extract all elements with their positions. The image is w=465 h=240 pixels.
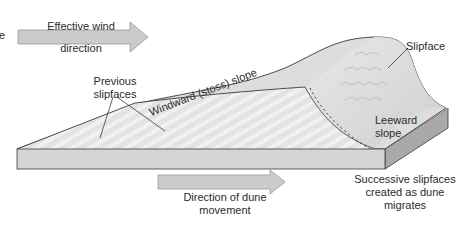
leeward-label-line2: slope: [375, 127, 417, 140]
successive-label-line3: migrates: [345, 199, 465, 212]
movement-label-line1: Direction of dune: [170, 191, 280, 204]
dune-movement-label: Direction of dune movement: [170, 191, 280, 217]
previous-label-line2: slipfaces: [80, 88, 150, 101]
successive-label-line1: Successive slipfaces: [345, 173, 465, 186]
cropped-left-label: e: [0, 29, 5, 42]
leeward-label-line1: Leeward: [375, 114, 417, 127]
slipface-label: Slipface: [406, 40, 445, 53]
successive-slipfaces-label: Successive slipfaces created as dune mig…: [345, 173, 465, 212]
previous-label-line1: Previous: [80, 75, 150, 88]
wind-label-line1: Effective wind: [40, 20, 122, 33]
leeward-slope-label: Leeward slope: [375, 114, 417, 140]
wind-label-line2: direction: [40, 42, 122, 55]
movement-label-line2: movement: [170, 204, 280, 217]
slab-front-face: [17, 149, 385, 169]
wind-direction-label: Effective wind direction: [40, 20, 122, 55]
previous-slipfaces-label: Previous slipfaces: [80, 75, 150, 101]
successive-label-line2: created as dune: [345, 186, 465, 199]
